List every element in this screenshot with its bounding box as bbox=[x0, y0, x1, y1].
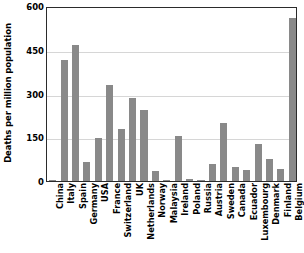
bar-series bbox=[47, 8, 296, 181]
x-tick-label-uk: UK bbox=[126, 183, 137, 253]
bar-russia bbox=[197, 180, 204, 181]
x-tick-label-austria: Austria bbox=[206, 183, 217, 253]
x-tick-label-italy: Italy bbox=[57, 183, 68, 253]
bar-denmark bbox=[266, 159, 273, 181]
bar-finland bbox=[277, 169, 284, 181]
bar-ecuador bbox=[243, 170, 250, 181]
bar-luxembourg bbox=[255, 144, 262, 181]
x-tick-label-spain: Spain bbox=[69, 183, 80, 253]
y-axis-title-text: Deaths per million population bbox=[3, 23, 13, 163]
bar-uk bbox=[129, 98, 136, 181]
y-axis-tick-labels: 0150300450600 bbox=[14, 0, 44, 253]
x-tick-label-france: France bbox=[103, 183, 114, 253]
bar-sweden bbox=[220, 123, 227, 181]
y-tick-label-0: 0 bbox=[14, 178, 44, 187]
x-tick-label-canada: Canada bbox=[229, 183, 240, 253]
x-tick-label-netherlands: Netherlands bbox=[137, 183, 148, 253]
bar-china bbox=[49, 180, 56, 181]
x-tick-label-sweden: Sweden bbox=[217, 183, 228, 253]
bar-switzerland bbox=[118, 129, 125, 181]
plot-area bbox=[46, 7, 297, 182]
bar-germany bbox=[83, 162, 90, 181]
bar-belgium bbox=[289, 18, 296, 181]
bar-chart-figure: Deaths per million population 0150300450… bbox=[0, 0, 304, 253]
bar-canada bbox=[232, 167, 239, 181]
y-tick-label-600: 600 bbox=[14, 3, 44, 12]
x-tick-label-finland: Finland bbox=[274, 183, 285, 253]
x-tick-label-luxembourg: Luxembourg bbox=[251, 183, 262, 253]
bar-italy bbox=[61, 60, 68, 181]
x-tick-label-usa: USA bbox=[92, 183, 103, 253]
y-tick-label-150: 150 bbox=[14, 134, 44, 143]
x-tick-label-denmark: Denmark bbox=[263, 183, 274, 253]
x-tick-label-malaysia: Malaysia bbox=[160, 183, 171, 253]
y-tick-label-300: 300 bbox=[14, 90, 44, 99]
x-tick-label-belgium: Belgium bbox=[286, 183, 297, 253]
bar-netherlands bbox=[140, 110, 147, 181]
bar-france bbox=[106, 85, 113, 181]
bar-malaysia bbox=[163, 180, 170, 181]
x-tick-label-germany: Germany bbox=[80, 183, 91, 253]
x-tick-label-norway: Norway bbox=[149, 183, 160, 253]
bar-spain bbox=[72, 45, 79, 182]
x-tick-label-switzerland: Switzerland bbox=[114, 183, 125, 253]
bar-poland bbox=[186, 179, 193, 181]
x-axis-tick-labels: ChinaItalySpainGermanyUSAFranceSwitzerla… bbox=[46, 183, 297, 253]
x-tick-label-ecuador: Ecuador bbox=[240, 183, 251, 253]
x-tick-label-poland: Poland bbox=[183, 183, 194, 253]
x-tick-label-ireland: Ireland bbox=[172, 183, 183, 253]
bar-norway bbox=[152, 171, 159, 182]
x-tick-label-russia: Russia bbox=[194, 183, 205, 253]
bar-usa bbox=[95, 138, 102, 181]
x-tick-label-text: Belgium bbox=[295, 183, 303, 221]
x-tick-label-china: China bbox=[46, 183, 57, 253]
bar-austria bbox=[209, 164, 216, 181]
y-tick-label-450: 450 bbox=[14, 47, 44, 56]
bar-ireland bbox=[175, 136, 182, 181]
